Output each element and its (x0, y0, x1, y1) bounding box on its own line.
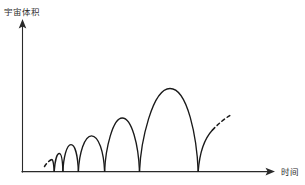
cyclic-universe-diagram: 宇宙体积 时间 (0, 0, 305, 185)
y-axis-label: 宇宙体积 (4, 7, 40, 17)
curve-trailing-dashed-segment (213, 115, 232, 131)
curve-cycle-6 (140, 89, 199, 172)
curve-cycle-3 (63, 145, 79, 172)
x-axis (22, 168, 275, 176)
curve-cycle-4 (78, 136, 104, 172)
curve-cycle-2 (54, 154, 63, 172)
curve-cycle-5 (105, 118, 140, 171)
y-axis (19, 19, 27, 172)
x-axis-label: 时间 (281, 167, 299, 177)
curve-leading-dashed-segment (45, 160, 52, 167)
curve-cycle-7-rising (198, 130, 212, 171)
diagram-canvas: 宇宙体积 时间 (0, 0, 305, 185)
